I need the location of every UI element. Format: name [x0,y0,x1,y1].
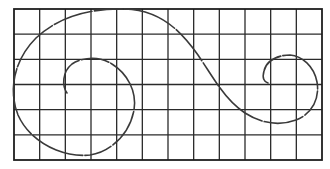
grid [14,9,322,160]
double-spiral-curve [13,9,317,155]
spiral-grid-diagram [0,0,330,169]
